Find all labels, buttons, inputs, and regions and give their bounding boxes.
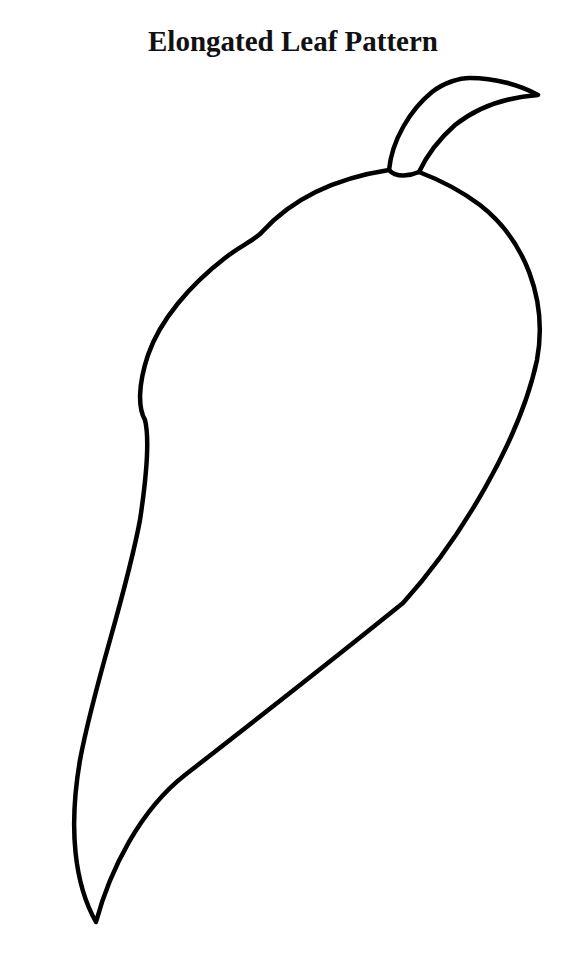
leaf-stem-outline [389, 78, 538, 172]
leaf-body-outline [74, 170, 540, 922]
leaf-outline-drawing [0, 0, 586, 966]
